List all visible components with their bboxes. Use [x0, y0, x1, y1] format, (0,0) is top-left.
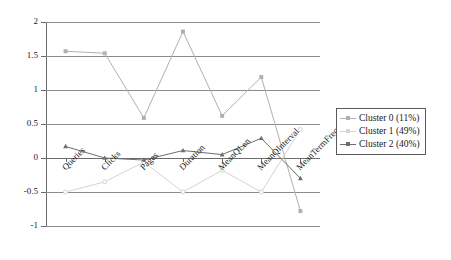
gridline-neg1 — [46, 226, 320, 227]
data-point — [298, 209, 302, 213]
series-line — [66, 32, 301, 212]
legend[interactable]: Cluster 0 (11%)Cluster 1 (49%)Cluster 2 … — [336, 108, 426, 155]
legend-marker-icon — [340, 113, 356, 124]
data-point — [142, 116, 146, 120]
y-tick-label: 1 — [0, 85, 38, 94]
y-tick-label: 2 — [0, 17, 38, 26]
series-layer — [46, 22, 320, 226]
y-tick: 0 — [0, 153, 38, 162]
data-point — [259, 136, 264, 140]
y-tick-label: -0.5 — [0, 187, 38, 196]
y-tick: 1.5 — [0, 51, 38, 60]
legend-item-1[interactable]: Cluster 1 (49%) — [340, 125, 420, 138]
legend-marker-icon — [340, 139, 356, 150]
data-point — [259, 75, 263, 79]
data-point — [64, 49, 68, 53]
data-point — [220, 114, 224, 118]
data-point — [63, 144, 68, 148]
y-tick: 0.5 — [0, 119, 38, 128]
data-point — [181, 148, 186, 152]
data-point — [259, 190, 263, 194]
y-tick: -0.5 — [0, 187, 38, 196]
y-tick: -1 — [0, 221, 38, 230]
y-tick: 2 — [0, 17, 38, 26]
series-0 — [64, 30, 303, 214]
legend-item-0[interactable]: Cluster 0 (11%) — [340, 112, 420, 125]
y-tick-label: 0.5 — [0, 119, 38, 128]
legend-marker-icon — [340, 126, 356, 137]
data-point — [181, 30, 185, 34]
plot-area — [46, 22, 320, 226]
y-tick-label: 0 — [0, 153, 38, 162]
legend-label: Cluster 0 (11%) — [359, 113, 419, 124]
line-chart: 21.510.50-0.5-1 QueriesClicksPagesDurati… — [0, 0, 451, 260]
data-point — [181, 190, 185, 194]
legend-label: Cluster 1 (49%) — [359, 126, 420, 137]
legend-label: Cluster 2 (40%) — [359, 139, 420, 150]
data-point — [103, 51, 107, 55]
y-tick-label: -1 — [0, 221, 38, 230]
data-point — [103, 180, 107, 184]
data-point — [64, 190, 68, 194]
legend-item-2[interactable]: Cluster 2 (40%) — [340, 138, 420, 151]
y-tick: 1 — [0, 85, 38, 94]
y-tick-label: 1.5 — [0, 51, 38, 60]
